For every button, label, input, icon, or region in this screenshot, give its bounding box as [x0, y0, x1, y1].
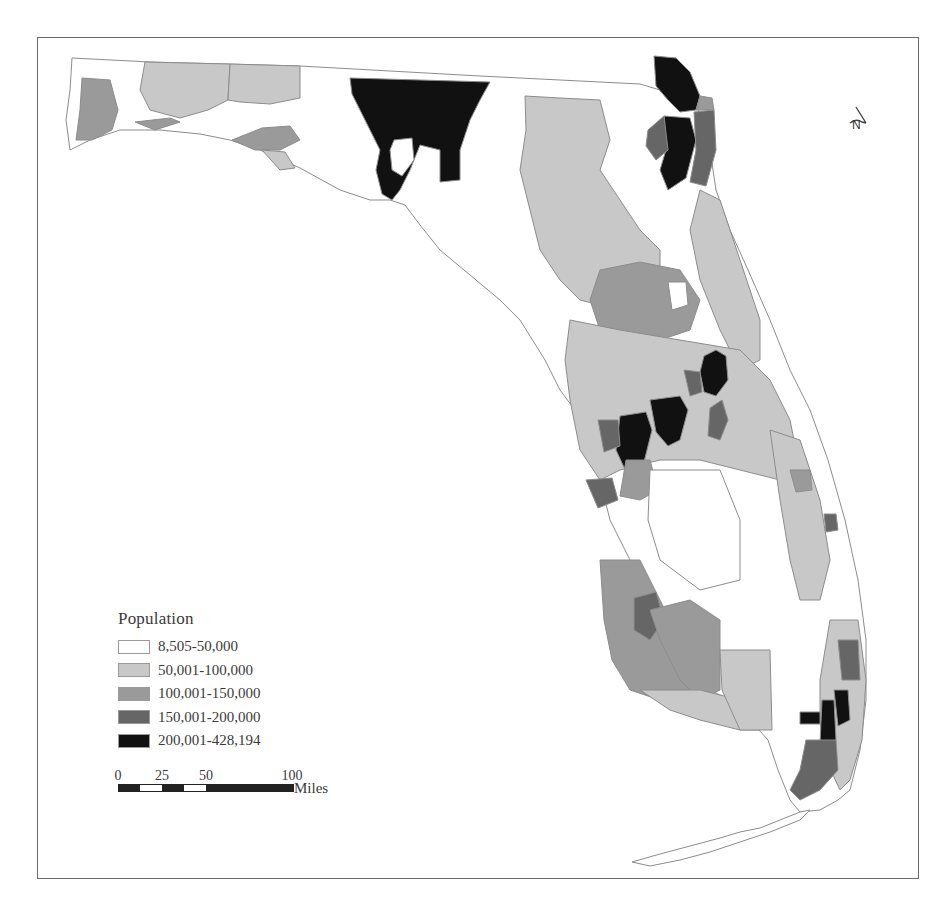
legend-swatch: [118, 734, 150, 748]
legend-item: 8,505-50,000: [118, 635, 261, 659]
florida-map: [0, 0, 952, 908]
legend-item: 50,001-100,000: [118, 659, 261, 683]
scale-bar-segments: [118, 784, 294, 792]
north-label: N: [852, 118, 861, 132]
legend-swatch: [118, 710, 150, 724]
legend-swatch: [118, 663, 150, 677]
scale-unit: Miles: [294, 780, 328, 797]
legend-item: 200,001-428,194: [118, 729, 261, 753]
legend-title: Population: [118, 609, 261, 629]
legend-item: 150,001-200,000: [118, 706, 261, 730]
legend-label: 50,001-100,000: [158, 662, 253, 679]
scale-tick: 25: [155, 768, 169, 784]
legend-item: 100,001-150,000: [118, 682, 261, 706]
legend-label: 100,001-150,000: [158, 685, 261, 702]
legend-swatch: [118, 640, 150, 654]
legend: Population 8,505-50,000 50,001-100,000 1…: [118, 609, 261, 753]
scale-tick: 0: [115, 768, 122, 784]
legend-swatch: [118, 687, 150, 701]
scale-tick: 50: [199, 768, 213, 784]
legend-label: 150,001-200,000: [158, 709, 261, 726]
legend-label: 8,505-50,000: [158, 638, 238, 655]
legend-label: 200,001-428,194: [158, 732, 261, 749]
